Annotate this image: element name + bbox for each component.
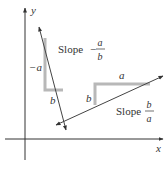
run-label-positive: a xyxy=(119,69,125,81)
svg-text:b: b xyxy=(147,99,152,110)
svg-text:a: a xyxy=(147,113,152,124)
slope-label-positive: Slope b a xyxy=(116,99,154,124)
perpendicular-slopes-diagram: y x −a b a b Slope − a b Slope b a xyxy=(0,0,165,170)
svg-text:−: − xyxy=(90,43,96,55)
y-axis-label: y xyxy=(30,4,36,16)
svg-text:a: a xyxy=(98,37,103,48)
svg-text:Slope: Slope xyxy=(116,105,141,117)
svg-text:b: b xyxy=(98,51,103,62)
slope-label-negative: Slope − a b xyxy=(58,37,105,62)
run-label-negative: b xyxy=(50,94,56,106)
rise-label-positive: b xyxy=(86,92,92,104)
x-axis-label: x xyxy=(155,142,161,154)
svg-text:Slope: Slope xyxy=(58,43,83,55)
rise-label-negative: −a xyxy=(29,61,42,73)
